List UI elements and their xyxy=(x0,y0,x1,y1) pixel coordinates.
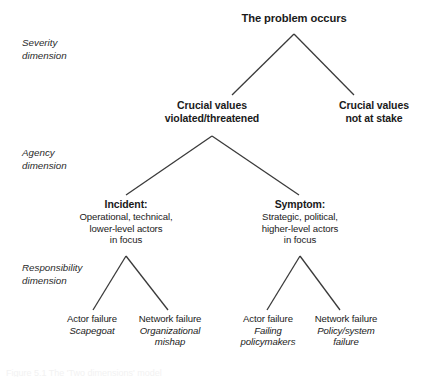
dimension-label-agency-line2: dimension xyxy=(22,160,67,171)
connector-values-to-symptom xyxy=(212,136,299,195)
node-leaf-network-failure-policy-system-failure-line3: failure xyxy=(315,336,377,348)
node-leaf-network-failure-organizational-mishap-line3: mishap xyxy=(139,336,201,348)
dimension-label-severity: Severity dimension xyxy=(22,37,67,62)
tree-diagram-figure: Severity dimension Agency dimension Resp… xyxy=(0,0,428,377)
node-symptom-line1: Strategic, political, xyxy=(262,211,339,223)
connector-incident-to-network-org xyxy=(126,256,168,310)
node-crucial-values-not-at-stake: Crucial values not at stake xyxy=(339,99,409,125)
connector-root-to-values-violated xyxy=(232,34,294,95)
node-symptom: Symptom: Strategic, political, higher-le… xyxy=(262,198,339,246)
node-leaf-network-failure-policy-system-failure-line2: Policy/system xyxy=(315,325,377,337)
node-symptom-line3: in focus xyxy=(262,234,339,246)
node-leaf-actor-failure-failing-policymakers-line1: Actor failure xyxy=(241,313,296,325)
node-root-heading: The problem occurs xyxy=(241,12,346,26)
dimension-label-severity-line1: Severity xyxy=(22,37,57,48)
dimension-label-agency: Agency dimension xyxy=(22,147,67,172)
node-incident-line2: lower-level actors xyxy=(79,223,172,235)
node-crucial-values-violated: Crucial values violated/threatened xyxy=(165,99,259,125)
node-leaf-actor-failure-failing-policymakers-line2: Failing xyxy=(241,325,296,337)
dimension-label-agency-line1: Agency xyxy=(22,147,55,158)
node-leaf-actor-failure-failing-policymakers-line3: policymakers xyxy=(241,336,296,348)
node-incident: Incident: Operational, technical, lower-… xyxy=(79,198,172,246)
connector-symptom-to-network-policy xyxy=(300,256,340,310)
node-leaf-actor-failure-scapegoat-line1: Actor failure xyxy=(67,313,117,325)
node-crucial-values-violated-line1: Crucial values xyxy=(165,99,259,112)
dimension-label-severity-line2: dimension xyxy=(22,50,67,61)
node-leaf-network-failure-organizational-mishap-line1: Network failure xyxy=(139,313,201,325)
connector-symptom-to-actor-failing xyxy=(267,256,300,310)
connector-root-to-values-safe xyxy=(294,34,354,95)
node-leaf-actor-failure-scapegoat-line2: Scapegoat xyxy=(67,325,117,337)
node-leaf-actor-failure-failing-policymakers: Actor failure Failing policymakers xyxy=(241,313,296,348)
dimension-label-responsibility-line2: dimension xyxy=(22,275,67,286)
connector-incident-to-actor-scapegoat xyxy=(93,256,126,310)
node-incident-line1: Operational, technical, xyxy=(79,211,172,223)
node-leaf-network-failure-policy-system-failure: Network failure Policy/system failure xyxy=(315,313,377,348)
connector-values-to-incident xyxy=(126,136,212,195)
node-incident-heading: Incident: xyxy=(79,198,172,211)
node-incident-line3: in focus xyxy=(79,234,172,246)
node-leaf-actor-failure-scapegoat: Actor failure Scapegoat xyxy=(67,313,117,336)
node-crucial-values-violated-line2: violated/threatened xyxy=(165,112,259,125)
node-leaf-network-failure-organizational-mishap-line2: Organizational xyxy=(139,325,201,337)
node-leaf-network-failure-policy-system-failure-line1: Network failure xyxy=(315,313,377,325)
node-symptom-heading: Symptom: xyxy=(262,198,339,211)
node-root-problem-occurs: The problem occurs xyxy=(241,12,346,26)
dimension-label-responsibility-line1: Responsibility xyxy=(22,262,82,273)
node-symptom-line2: higher-level actors xyxy=(262,223,339,235)
node-crucial-values-not-at-stake-line2: not at stake xyxy=(339,112,409,125)
node-crucial-values-not-at-stake-line1: Crucial values xyxy=(339,99,409,112)
dimension-label-responsibility: Responsibility dimension xyxy=(22,262,82,287)
figure-caption: Figure 5.1 The 'Two dimensions' model xyxy=(6,368,162,377)
node-leaf-network-failure-organizational-mishap: Network failure Organizational mishap xyxy=(139,313,201,348)
